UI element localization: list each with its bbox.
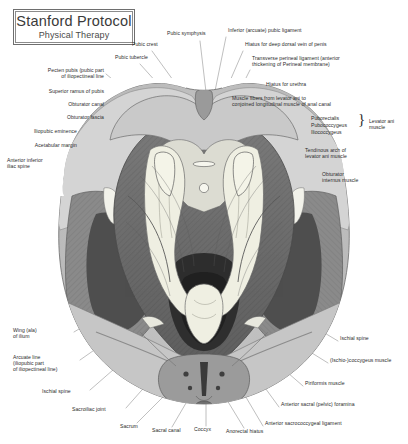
label-pubic-crest: Pubic crest — [132, 41, 174, 47]
label-ischial-spine-left: Ischial spine — [42, 388, 90, 394]
label-acetabular-margin: Acetabular margin — [7, 142, 77, 148]
curly-brace-icon: } — [358, 112, 365, 127]
label-pubic-symphysis: Pubic symphysis — [167, 30, 225, 36]
title-subtitle: Physical Therapy — [39, 30, 109, 41]
label-pubic-tubercle: Pubic tubercle — [115, 54, 167, 60]
title-main: Stanford Protocol — [16, 14, 131, 29]
label-inferior-arcuate-pubic-ligament: Inferior (arcuate) pubic ligament — [228, 27, 348, 33]
label-pecten-pubis: Pecten pubis (pubic part of iliopectinea… — [24, 67, 104, 79]
label-anorectal-hiatus: Anorectal hiatus — [226, 428, 284, 434]
label-anterior-inferior-iliac-spine: Anterior inferior iliac spine — [7, 157, 77, 169]
label-iliopubic-eminence: Iliopubic eminence — [7, 128, 77, 134]
label-sacral-canal: Sacral canal — [152, 427, 196, 433]
label-coccyx: Coccyx — [194, 426, 224, 432]
label-pubococcygeus: Pubococcygeus — [311, 122, 347, 128]
label-ischio-coccygeus-muscle: (Ischio-)coccygeus muscle — [330, 357, 408, 363]
label-anterior-sacrococcygeal-ligament: Anterior sacrococcygeal ligament — [265, 420, 385, 426]
label-obturator-canal: Obturator canal — [47, 101, 104, 107]
label-arcuate-line: Arcuate line (iliopubic part of iliopect… — [13, 354, 89, 372]
label-ischial-spine-right: Ischial spine — [340, 335, 390, 341]
title-block: Stanford Protocol Physical Therapy — [13, 9, 135, 45]
label-superior-ramus-of-pubis: Superior ramus of pubis — [21, 88, 104, 94]
anatomy-figure-page: Stanford Protocol Physical Therapy Pecte… — [0, 0, 408, 444]
label-sacrum: Sacrum — [120, 423, 154, 429]
label-hiatus-for-deep-dorsal-vein-of-penis: Hiatus for deep dorsal vein of penis — [245, 41, 375, 47]
label-levator-ani-muscle: Levator ani muscle — [369, 118, 394, 130]
label-obturator-fascia: Obturator fascia — [44, 114, 104, 120]
label-piriformis-muscle: Piriformis muscle — [305, 380, 371, 386]
label-anterior-sacral-pelvic-foramina: Anterior sacral (pelvic) foramina — [281, 401, 397, 407]
label-hiatus-for-urethra: Hiatus for urethra — [266, 81, 328, 87]
label-sacroiliac-joint: Sacroiliac joint — [72, 406, 126, 412]
label-iliococcygeus: Iliococcygeus — [311, 129, 342, 135]
label-tendinous-arch-levator-ani: Tendinous arch of levator ani muscle — [305, 147, 375, 159]
label-wing-ala-of-ilium: Wing (ala) of ilium — [13, 327, 73, 339]
title-block-inner: Stanford Protocol Physical Therapy — [15, 11, 133, 43]
label-obturator-internus-muscle: Obturator internus muscle — [322, 171, 386, 183]
label-muscle-fibers-levator-ani: Muscle fibers from levator ani to conjoi… — [232, 95, 392, 107]
label-puborectalis: Puborectalis — [311, 115, 339, 121]
label-transverse-perineal-ligament: Transverse perineal ligament (anterior t… — [252, 55, 398, 67]
pelvis-body — [54, 78, 351, 422]
